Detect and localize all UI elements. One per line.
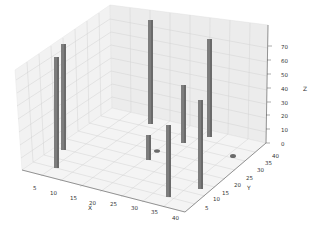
svg-text:10: 10 (213, 196, 220, 202)
svg-text:35: 35 (151, 209, 158, 215)
svg-text:25: 25 (246, 175, 253, 181)
bar (54, 57, 59, 168)
svg-text:35: 35 (265, 160, 272, 166)
y-axis-label: Y (246, 184, 251, 191)
svg-text:30: 30 (281, 100, 288, 106)
svg-text:10: 10 (50, 190, 57, 196)
svg-text:50: 50 (281, 72, 288, 78)
svg-text:40: 40 (281, 86, 288, 92)
svg-text:10: 10 (281, 127, 288, 133)
z-axis-ticks: 0 10 20 30 40 50 60 70 Z (266, 44, 307, 147)
svg-text:40: 40 (272, 153, 279, 159)
x-axis-label: X (88, 204, 92, 211)
bar-flat (154, 149, 160, 153)
bar (61, 44, 66, 150)
bar (181, 85, 186, 143)
svg-text:20: 20 (281, 113, 288, 119)
svg-text:0: 0 (281, 141, 285, 147)
svg-text:5: 5 (205, 205, 209, 211)
svg-text:40: 40 (172, 215, 179, 221)
bar (148, 20, 153, 124)
svg-text:60: 60 (281, 58, 288, 64)
bar (207, 39, 212, 137)
z-axis-label: Z (303, 85, 307, 92)
back-panes (15, 5, 268, 212)
svg-text:20: 20 (234, 182, 241, 188)
bar (146, 135, 151, 160)
svg-text:30: 30 (131, 205, 138, 211)
svg-text:30: 30 (257, 167, 264, 173)
bar-flat (230, 154, 236, 158)
svg-text:15: 15 (222, 190, 229, 196)
svg-text:5: 5 (33, 185, 37, 191)
bar3d-chart: 5 10 15 20 25 30 35 40 X 5 10 15 20 25 3… (0, 0, 311, 231)
bar (166, 125, 171, 197)
svg-text:70: 70 (281, 44, 288, 50)
bar (198, 100, 203, 189)
svg-text:25: 25 (110, 201, 117, 207)
svg-text:15: 15 (70, 195, 77, 201)
